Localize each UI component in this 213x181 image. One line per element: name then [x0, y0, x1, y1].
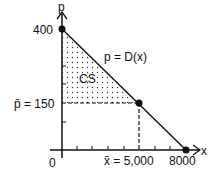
x-intercept-point	[183, 147, 190, 154]
origin-label: 0	[49, 156, 56, 170]
demand-curve-label: p = D(x)	[104, 50, 147, 64]
x-axis-label: x	[201, 144, 207, 158]
p-bar-label: p̄ = 150	[14, 97, 55, 111]
x-intercept-label: 8000	[169, 154, 196, 168]
equilibrium-point	[136, 100, 143, 107]
x-bar-label: x̄ = 5,000	[104, 154, 154, 168]
consumer-surplus-label: CS	[79, 72, 96, 86]
p-intercept-label: 400	[33, 23, 53, 37]
consumer-surplus-diagram: p x 0 400 p̄ = 150 x̄ = 5,000 8000 p = D…	[0, 0, 213, 181]
y-axis-label: p	[58, 0, 65, 14]
p-intercept-point	[59, 26, 66, 33]
